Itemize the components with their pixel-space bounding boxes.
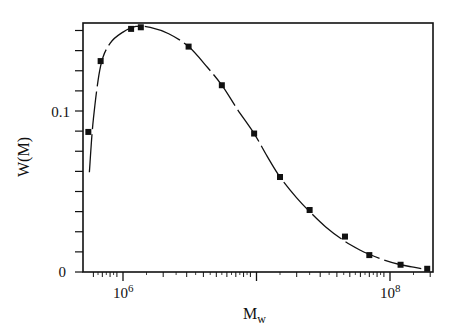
data-points — [85, 24, 430, 272]
fitted-curve — [89, 26, 427, 270]
y-tick-label-0: 0 — [59, 264, 67, 280]
curve-path — [89, 26, 427, 270]
data-point — [138, 24, 144, 30]
data-point — [366, 252, 372, 258]
y-axis-ticks — [75, 31, 83, 273]
data-point — [342, 234, 348, 240]
y-tick-label-0.1: 0.1 — [51, 104, 70, 120]
y-axis-label: W(M) — [15, 137, 33, 177]
data-point — [186, 44, 192, 50]
data-point — [219, 82, 225, 88]
data-point — [307, 207, 313, 213]
x-axis-ticks — [93, 272, 430, 281]
data-point — [128, 26, 134, 32]
x-axis-label: Mw — [243, 305, 266, 326]
plot-frame — [83, 23, 433, 272]
data-point — [424, 266, 430, 272]
x-tick-label-1e6: 106 — [113, 282, 134, 301]
data-point — [277, 174, 283, 180]
data-point — [251, 131, 257, 137]
x-tick-label-1e8: 108 — [380, 282, 401, 301]
data-point — [85, 129, 91, 135]
data-point — [98, 58, 104, 64]
chart: 0 0.1 106 108 Mw W(M) — [0, 0, 457, 330]
data-point — [398, 262, 404, 268]
